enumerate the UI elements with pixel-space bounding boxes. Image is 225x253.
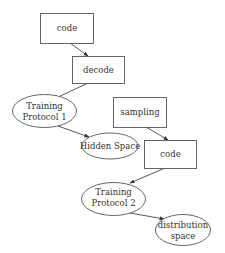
node-sampling-label: sampling: [120, 107, 160, 117]
node-training-protocol-2-label-line1: Training: [95, 187, 132, 197]
node-distribution-space-label-line2: space: [171, 231, 196, 241]
node-decode-label: decode: [83, 65, 114, 75]
node-training-protocol-1[interactable]: Training Protocol 1: [13, 95, 77, 128]
node-code-2[interactable]: code: [145, 141, 197, 169]
flowchart-canvas: code decode Training Protocol 1 sampling…: [0, 0, 225, 253]
node-code-1[interactable]: code: [41, 14, 94, 44]
edge-training-protocol-1-to-hidden-space: [58, 126, 89, 137]
edge-sampling-to-code: [146, 127, 168, 140]
edge-code-to-decode: [70, 43, 88, 56]
node-training-protocol-1-ellipse: [13, 95, 77, 128]
node-distribution-space-label-line1: distribution: [158, 220, 209, 230]
node-training-protocol-1-label-line2: Protocol 1: [22, 112, 66, 122]
node-training-protocol-1-label-line1: Training: [26, 101, 63, 111]
node-decode[interactable]: decode: [73, 57, 125, 84]
edge-training-protocol-2-to-distribution-space: [130, 213, 164, 219]
node-distribution-space[interactable]: distribution space: [156, 215, 211, 246]
node-training-protocol-2-label-line2: Protocol 2: [91, 198, 135, 208]
node-hidden-space-label: Hidden Space: [80, 141, 140, 151]
node-sampling[interactable]: sampling: [114, 98, 167, 128]
node-training-protocol-2[interactable]: Training Protocol 2: [82, 183, 146, 216]
node-code-1-label: code: [57, 23, 77, 33]
edge-code-to-training-protocol-2: [130, 168, 165, 183]
node-code-2-label: code: [160, 149, 180, 159]
